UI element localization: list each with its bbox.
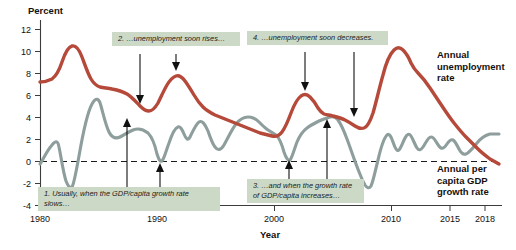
x-tick-1980: 1980 bbox=[30, 214, 50, 224]
y-tick-10: 10 bbox=[21, 47, 31, 57]
gdp-growth-line bbox=[40, 99, 499, 187]
x-tick-1990: 1990 bbox=[147, 214, 167, 224]
x-tick-labels: 1980 1990 2000 2010 2015 2018 bbox=[30, 214, 495, 224]
x-tick-2015: 2015 bbox=[440, 214, 460, 224]
y-tick-minus2: -2 bbox=[23, 179, 31, 189]
legend-gdp-label: Annual per capita GDP growth rate bbox=[437, 163, 489, 198]
annotation-4-unemployment-decreases: 4. …unemployment soon decreases. bbox=[247, 31, 388, 45]
annotation-2-unemployment-rises: 2. …unemployment soon rises… bbox=[112, 32, 240, 46]
x-tick-2010: 2010 bbox=[381, 214, 401, 224]
arrowhead-1990-gdp bbox=[123, 118, 131, 127]
arrowhead-1992-unemployment bbox=[172, 62, 180, 71]
y-tick-labels: 12 10 8 6 4 2 0 -2 -4 bbox=[21, 25, 31, 211]
y-tick-4: 4 bbox=[26, 113, 31, 123]
y-tick-8: 8 bbox=[26, 69, 31, 79]
y-tick-2: 2 bbox=[26, 135, 31, 145]
arrowhead-1991-gdp bbox=[156, 163, 164, 172]
arrowhead-2006-unemployment bbox=[350, 108, 358, 117]
legend-unemployment-label: Annual unemployment rate bbox=[437, 49, 505, 84]
annotation-3-gdp-increases: 3. …and when the growth rate of GDP/capi… bbox=[247, 179, 364, 203]
y-tick-6: 6 bbox=[26, 91, 31, 101]
x-tick-2018: 2018 bbox=[475, 214, 495, 224]
unemployment-line bbox=[40, 46, 499, 164]
chart-container: Percent bbox=[0, 0, 516, 250]
y-tick-12: 12 bbox=[21, 25, 31, 35]
x-axis-title: Year bbox=[260, 229, 280, 240]
y-tick-0: 0 bbox=[26, 157, 31, 167]
arrowhead-2003-unemployment bbox=[301, 82, 309, 91]
y-tick-minus4: -4 bbox=[23, 201, 31, 211]
annotation-1-gdp-slows: 1. Usually, when the GDP/capita growth r… bbox=[38, 187, 220, 211]
x-tick-2000: 2000 bbox=[264, 214, 284, 224]
